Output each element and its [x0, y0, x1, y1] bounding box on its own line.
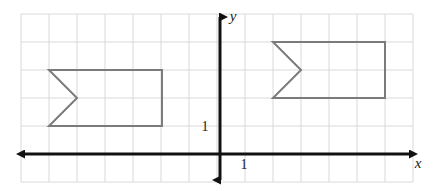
- y-axis-label: y: [228, 8, 237, 24]
- axis-labels: x y 1 1: [202, 8, 422, 172]
- coordinate-plane-svg: x y 1 1: [0, 0, 435, 191]
- x-unit-tick-label: 1: [241, 157, 248, 172]
- x-axis-label: x: [414, 155, 422, 171]
- coordinate-figure: x y 1 1: [0, 0, 435, 191]
- y-unit-tick-label: 1: [202, 119, 209, 134]
